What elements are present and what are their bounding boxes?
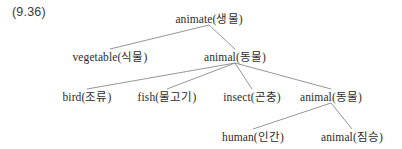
tree-node-insect: insect(곤충) [223, 88, 280, 104]
tree-edge-animal-l1-to-bird [87, 63, 235, 89]
tree-edge-animal-l1-to-fish [167, 63, 235, 89]
tree-node-animal-l1: animal(동물) [204, 48, 266, 64]
tree-edge-animal-l2-to-human [253, 103, 331, 129]
tree-node-animal-l3: animal(짐승) [321, 128, 383, 144]
tree-node-vegetable: vegetable(식물) [72, 48, 147, 64]
tree-node-human: human(인간) [222, 128, 284, 144]
tree-edge-animal-l2-to-animal-l3 [331, 103, 352, 129]
tree-edge-animal-l1-to-insect [235, 63, 252, 89]
tree-node-animal-l2: animal(동물) [300, 88, 362, 104]
tree-node-bird: bird(조류) [63, 88, 112, 104]
tree-edge-animal-l1-to-animal-l2 [235, 63, 331, 89]
tree-node-fish: fish(물고기) [138, 88, 197, 104]
semantic-tree-figure: (9.36) animate(생물)vegetable(식물)animal(동물… [0, 0, 402, 149]
tree-edge-animate-to-vegetable [110, 25, 209, 49]
example-number-label: (9.36) [12, 5, 46, 19]
tree-edge-animate-to-animal-l1 [209, 25, 235, 49]
tree-node-animate: animate(생물) [175, 10, 242, 26]
